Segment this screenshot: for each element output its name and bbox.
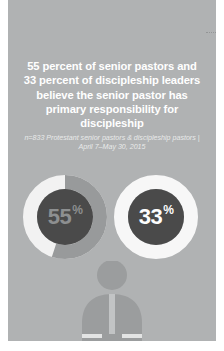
donut-left-label: 55% — [22, 174, 108, 260]
source-caption: n=833 Protestant senior pastors & discip… — [20, 134, 204, 153]
infographic-card: 55 percent of senior pastors and 33 perc… — [8, 0, 216, 341]
headline-text: 55 percent of senior pastors and 33 perc… — [20, 59, 204, 130]
donut-chart-senior-pastors: 55% — [22, 174, 108, 260]
pastor-silhouette-icon — [8, 261, 216, 341]
donut-right-value: 33 — [139, 206, 162, 228]
donut-right-percent-sign: % — [163, 204, 173, 216]
dotted-connector-line — [206, 32, 216, 33]
donut-left-percent-sign: % — [72, 204, 82, 216]
donut-chart-discipleship-leaders: 33% — [113, 174, 199, 260]
donut-left-value: 55 — [48, 206, 71, 228]
donut-right-label: 33% — [113, 174, 199, 260]
donut-chart-row: 55% 33% — [8, 174, 216, 260]
